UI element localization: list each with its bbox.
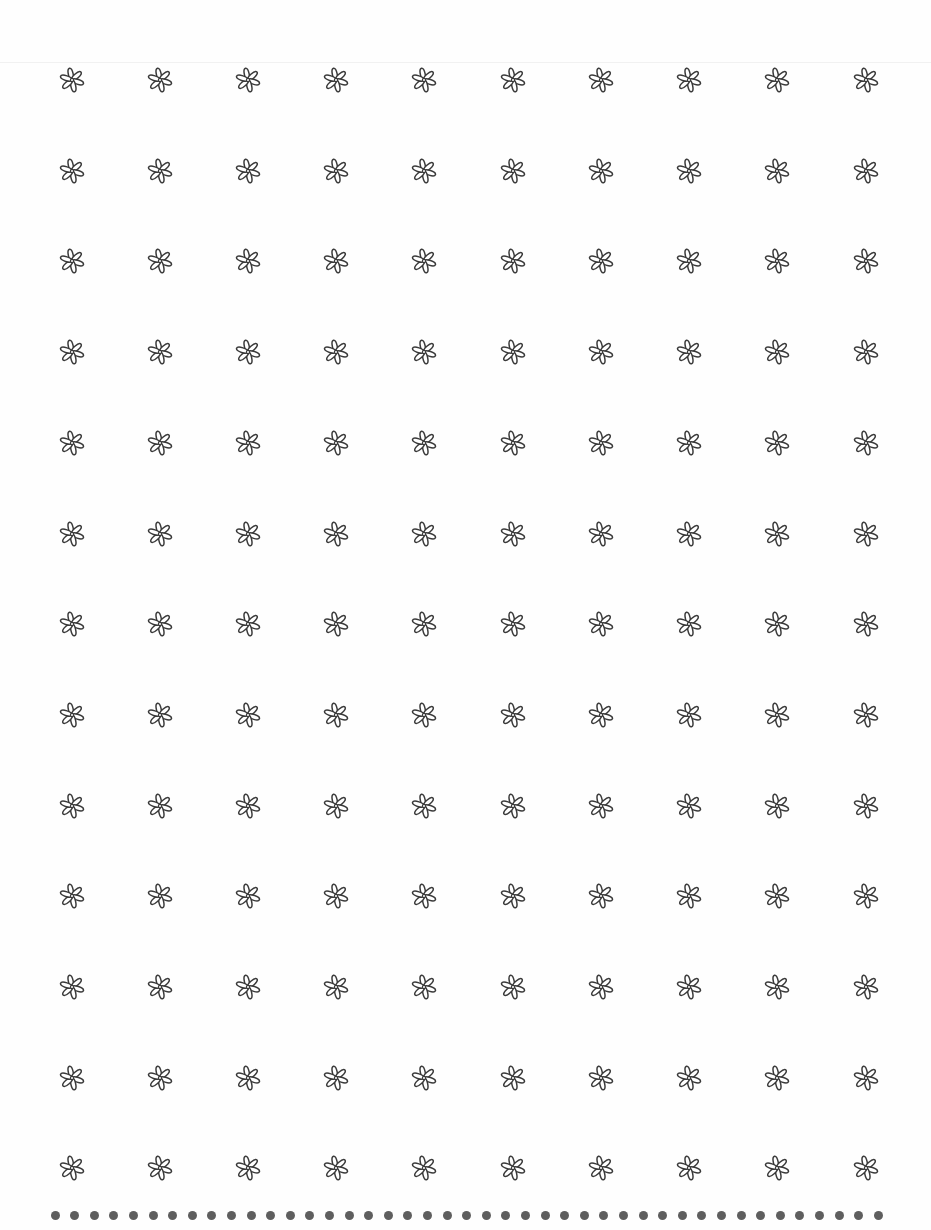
flower-icon — [588, 1065, 614, 1091]
flower-icon — [588, 883, 614, 909]
flower-icon — [235, 611, 261, 637]
flower-icon — [411, 1155, 437, 1181]
flower-icon — [147, 702, 173, 728]
flower-icon — [853, 67, 879, 93]
flower-icon — [147, 67, 173, 93]
flower-icon — [500, 67, 526, 93]
dot-icon — [462, 1211, 471, 1220]
flower-icon — [588, 702, 614, 728]
dot-icon — [815, 1211, 824, 1220]
flower-icon — [500, 883, 526, 909]
flower-icon — [764, 158, 790, 184]
dot-icon — [580, 1211, 589, 1220]
flower-icon — [235, 158, 261, 184]
dot-icon — [697, 1211, 706, 1220]
flower-icon — [147, 793, 173, 819]
flower-icon — [588, 430, 614, 456]
flower-icon — [853, 521, 879, 547]
flower-icon — [411, 158, 437, 184]
flower-icon — [500, 974, 526, 1000]
flower-icon — [853, 1155, 879, 1181]
flower-icon — [59, 793, 85, 819]
flower-icon — [588, 521, 614, 547]
flower-icon — [323, 883, 349, 909]
flower-icon — [588, 611, 614, 637]
flower-icon — [235, 1155, 261, 1181]
dot-icon — [345, 1211, 354, 1220]
dot-icon — [266, 1211, 275, 1220]
flower-icon — [59, 430, 85, 456]
flower-icon — [853, 158, 879, 184]
dot-icon — [227, 1211, 236, 1220]
flower-icon — [764, 67, 790, 93]
dot-icon — [619, 1211, 628, 1220]
flower-icon — [853, 339, 879, 365]
flower-icon — [235, 1065, 261, 1091]
flower-icon — [853, 1065, 879, 1091]
flower-icon — [147, 339, 173, 365]
dot-icon — [639, 1211, 648, 1220]
flower-icon — [500, 702, 526, 728]
flower-icon — [323, 339, 349, 365]
flower-icon — [764, 248, 790, 274]
flower-icon — [59, 702, 85, 728]
flower-icon — [323, 248, 349, 274]
flower-icon — [676, 248, 702, 274]
dot-icon — [286, 1211, 295, 1220]
flower-icon — [764, 702, 790, 728]
flower-icon — [323, 158, 349, 184]
flower-icon — [235, 339, 261, 365]
dot-icon — [737, 1211, 746, 1220]
flower-icon — [411, 339, 437, 365]
dot-icon — [207, 1211, 216, 1220]
flower-icon — [411, 883, 437, 909]
flower-icon — [323, 430, 349, 456]
flower-icon — [411, 1065, 437, 1091]
dot-icon — [168, 1211, 177, 1220]
flower-icon — [764, 974, 790, 1000]
flower-icon — [676, 521, 702, 547]
flower-icon — [853, 611, 879, 637]
flower-icon — [323, 521, 349, 547]
flower-icon — [764, 611, 790, 637]
flower-icon — [59, 67, 85, 93]
dot-icon — [325, 1211, 334, 1220]
flower-icon — [235, 702, 261, 728]
flower-icon — [147, 248, 173, 274]
flower-icon — [500, 339, 526, 365]
dot-icon — [658, 1211, 667, 1220]
dot-icon — [560, 1211, 569, 1220]
dot-icon — [756, 1211, 765, 1220]
flower-icon — [588, 248, 614, 274]
flower-icon — [147, 1065, 173, 1091]
flower-icon — [588, 1155, 614, 1181]
flower-icon — [588, 974, 614, 1000]
flower-icon — [853, 974, 879, 1000]
flower-icon — [676, 430, 702, 456]
dot-icon — [109, 1211, 118, 1220]
dot-icon — [247, 1211, 256, 1220]
dot-icon — [188, 1211, 197, 1220]
flower-icon — [853, 793, 879, 819]
worksheet-page — [0, 0, 931, 1230]
flower-icon — [676, 702, 702, 728]
flower-icon — [147, 521, 173, 547]
dot-icon — [776, 1211, 785, 1220]
flower-icon — [147, 974, 173, 1000]
dot-icon — [874, 1211, 883, 1220]
dot-icon — [51, 1211, 60, 1220]
flower-icon — [764, 339, 790, 365]
flower-icon — [764, 1155, 790, 1181]
flower-icon — [59, 1065, 85, 1091]
flower-icon — [500, 430, 526, 456]
flower-icon — [676, 1155, 702, 1181]
dot-icon — [149, 1211, 158, 1220]
dot-icon — [423, 1211, 432, 1220]
dot-icon — [854, 1211, 863, 1220]
flower-icon — [853, 702, 879, 728]
dot-icon — [70, 1211, 79, 1220]
flower-icon — [853, 248, 879, 274]
flower-icon — [676, 883, 702, 909]
flower-icon — [235, 793, 261, 819]
flower-icon — [59, 974, 85, 1000]
